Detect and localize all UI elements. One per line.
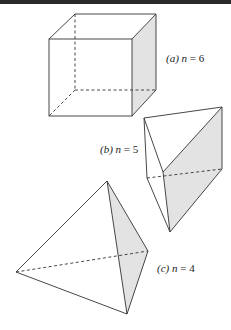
- label-prism-prefix: (b): [100, 143, 113, 155]
- label-cube-prefix: (a): [166, 52, 179, 64]
- prism-shape: [144, 107, 222, 232]
- label-cube: (a) n = 6: [166, 52, 204, 64]
- polyhedra-figure: [0, 0, 231, 330]
- cube-shaded-right-face: [132, 14, 156, 116]
- label-tetrahedron-var: n: [172, 262, 178, 274]
- label-prism-var: n: [116, 143, 122, 155]
- prism-shaded-face: [163, 107, 222, 232]
- label-tetrahedron-prefix: (c): [157, 262, 169, 274]
- tetrahedron-shaded-face: [107, 181, 148, 314]
- label-cube-var: n: [182, 52, 188, 64]
- label-cube-value: = 6: [190, 52, 204, 64]
- tetrahedron-shape: [16, 181, 148, 314]
- label-tetrahedron-value: = 4: [180, 262, 194, 274]
- cube-shape: [49, 14, 156, 116]
- cube-front-face: [49, 39, 132, 116]
- label-tetrahedron: (c) n = 4: [157, 262, 195, 274]
- label-prism: (b) n = 5: [100, 143, 138, 155]
- label-prism-value: = 5: [124, 143, 138, 155]
